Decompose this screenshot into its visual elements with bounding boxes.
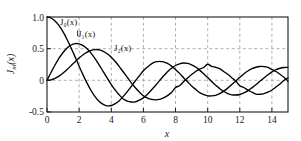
x-tick-label-12: 12 <box>235 115 245 125</box>
chart-canvas: 1.0 0.5 0 -0.5 0 2 4 6 8 10 12 14 x Jm(x… <box>0 0 301 141</box>
x-axis-title: x <box>164 128 170 139</box>
x-tick-label-0: 0 <box>45 115 50 125</box>
bessel-function-chart: 1.0 0.5 0 -0.5 0 2 4 6 8 10 12 14 x Jm(x… <box>0 0 301 141</box>
x-tick-label-4: 4 <box>109 115 114 125</box>
y-tick-label-1.0: 1.0 <box>32 13 44 23</box>
x-tick-label-2: 2 <box>77 115 82 125</box>
curve-label-J0: J₀(x) <box>60 17 77 27</box>
x-tick-label-10: 10 <box>203 115 213 125</box>
x-tick-label-8: 8 <box>173 115 178 125</box>
curve-label-J2: J₂(x) <box>114 43 131 53</box>
curve-label-J1: J₁(x) <box>78 29 95 39</box>
x-tick-label-14: 14 <box>267 115 277 125</box>
y-tick-label--0.5: -0.5 <box>29 107 44 117</box>
y-tick-label-0: 0 <box>39 76 44 86</box>
x-tick-label-6: 6 <box>141 115 146 125</box>
y-tick-label-0.5: 0.5 <box>32 44 44 54</box>
